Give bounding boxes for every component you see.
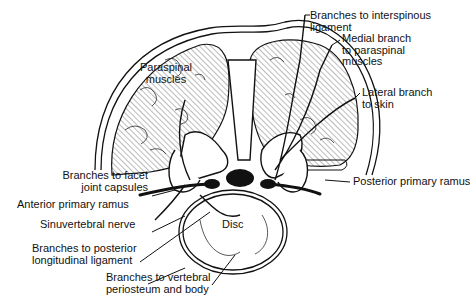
label-lateral-branch: Lateral branch to skin (362, 87, 432, 110)
label-line: Branches to posterior (32, 243, 137, 255)
label-line: Medial branch (342, 33, 411, 45)
label-line: Paraspinal (140, 62, 192, 74)
label-anterior-primary-ramus: Anterior primary ramus (17, 199, 129, 211)
label-medial-branch: Medial branch to paraspinal muscles (342, 33, 411, 68)
label-branches-vertebral-periosteum: Branches to vertebral periosteum and bod… (106, 272, 211, 295)
label-paraspinal-muscles: Paraspinal muscles (140, 62, 192, 85)
label-line: Lateral branch (362, 87, 432, 99)
label-line: Branches to interspinous (310, 10, 431, 22)
label-line: to skin (362, 99, 432, 111)
label-sinuvertebral-nerve: Sinuvertebral nerve (40, 219, 135, 231)
label-line: joint capsules (62, 182, 148, 194)
label-posterior-primary-ramus: Posterior primary ramus (353, 176, 470, 188)
label-line: Branches to vertebral (106, 272, 211, 284)
label-line: longitudinal ligament (32, 255, 137, 267)
label-branches-facet: Branches to facet joint capsules (62, 170, 148, 193)
label-line: periosteum and body (106, 284, 211, 296)
label-branches-posterior-longitudinal: Branches to posterior longitudinal ligam… (32, 243, 137, 266)
vertebral-disc (179, 190, 287, 274)
label-line: Branches to facet (62, 170, 148, 182)
label-disc: Disc (222, 219, 243, 231)
label-line: muscles (140, 74, 192, 86)
label-branches-interspinous: Branches to interspinous ligament (310, 10, 431, 33)
label-line: muscles (342, 56, 411, 68)
